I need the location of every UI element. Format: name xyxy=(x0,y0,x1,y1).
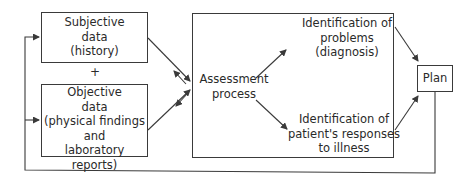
assessment-to-subjective-arrow xyxy=(174,71,186,84)
responses-line-1: Identification of xyxy=(285,112,403,127)
objective-line-4: and xyxy=(41,129,148,144)
problems-line-1: Identification of xyxy=(292,16,402,31)
objective-line-1: Objective xyxy=(41,85,148,100)
subjective-to-assessment-arrow xyxy=(148,38,190,81)
problems-line-3: (diagnosis) xyxy=(292,45,402,60)
plan-label: Plan xyxy=(417,71,453,86)
subjective-line-2: data xyxy=(41,30,148,45)
problems-line-2: problems xyxy=(292,31,402,46)
subjective-line-1: Subjective xyxy=(41,15,148,30)
subjective-data-label: Subjective data (history) xyxy=(41,15,148,59)
objective-line-3: (physical findings xyxy=(41,114,148,129)
objective-line-5: laboratory reports) xyxy=(41,143,148,172)
responses-line-3: to illness xyxy=(285,141,403,156)
assessment-to-objective-arrow xyxy=(176,94,187,106)
assessment-line-1: Assessment xyxy=(194,72,274,87)
objective-to-assessment-arrow xyxy=(148,90,190,130)
assessment-process-label: Assessment process xyxy=(194,72,274,101)
objective-data-label: Objective data (physical findings and la… xyxy=(41,85,148,172)
plus-sign: + xyxy=(86,65,104,80)
subjective-line-3: (history) xyxy=(41,44,148,59)
assessment-line-2: process xyxy=(194,87,274,102)
responses-line-2: patient's responses xyxy=(285,127,403,142)
objective-line-2: data xyxy=(41,100,148,115)
identification-of-responses-label: Identification of patient's responses to… xyxy=(285,112,403,156)
identification-of-problems-label: Identification of problems (diagnosis) xyxy=(292,16,402,60)
